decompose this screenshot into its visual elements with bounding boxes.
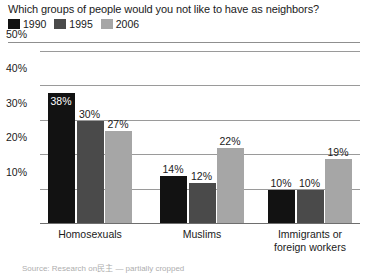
legend-swatch-1995 xyxy=(54,19,66,29)
bar-value-label: 22% xyxy=(210,135,250,147)
bar[interactable]: 30% xyxy=(77,121,104,224)
chart-legend: 1990 1995 2006 xyxy=(8,19,139,29)
bar-value-label: 10% xyxy=(290,177,330,189)
bar[interactable]: 10% xyxy=(268,190,295,224)
plot-area: 10%20%30%40%50% 38%30%27%Homosexuals14%1… xyxy=(40,52,360,224)
bar[interactable]: 22% xyxy=(217,148,244,224)
legend-label-2006: 2006 xyxy=(116,19,139,29)
legend-item-2006: 2006 xyxy=(101,19,139,29)
bar[interactable]: 19% xyxy=(325,159,352,224)
bar[interactable]: 14% xyxy=(160,176,187,224)
y-tick-label: 10% xyxy=(6,166,27,178)
bar[interactable]: 12% xyxy=(189,183,216,224)
legend-item-1995: 1995 xyxy=(54,19,92,29)
bar-value-label: 38% xyxy=(41,95,81,107)
bar-group: 10%10%19%Immigrants orforeign workers xyxy=(268,52,352,224)
bar-group: 38%30%27%Homosexuals xyxy=(48,52,132,224)
legend-label-1995: 1995 xyxy=(69,19,92,29)
bar-value-label: 19% xyxy=(318,146,358,158)
bar-value-label: 12% xyxy=(182,170,222,182)
y-tick-label: 50% xyxy=(6,28,27,40)
source-note: Source: Research on民主 — partially croppe… xyxy=(22,262,184,273)
y-tick-label: 40% xyxy=(6,62,27,74)
bar[interactable]: 10% xyxy=(297,190,324,224)
bar-value-label: 27% xyxy=(98,118,138,130)
y-tick-label: 20% xyxy=(6,131,27,143)
bar-group: 14%12%22%Muslims xyxy=(160,52,244,224)
category-label: Immigrants orforeign workers xyxy=(235,228,372,253)
bar[interactable]: 27% xyxy=(105,131,132,224)
legend-swatch-2006 xyxy=(101,19,113,29)
x-axis-baseline xyxy=(40,223,360,225)
y-tick-label: 30% xyxy=(6,97,27,109)
chart-title: Which groups of people would you not lik… xyxy=(8,3,319,15)
header-divider xyxy=(8,42,360,43)
bar-groups: 38%30%27%Homosexuals14%12%22%Muslims10%1… xyxy=(40,52,360,224)
